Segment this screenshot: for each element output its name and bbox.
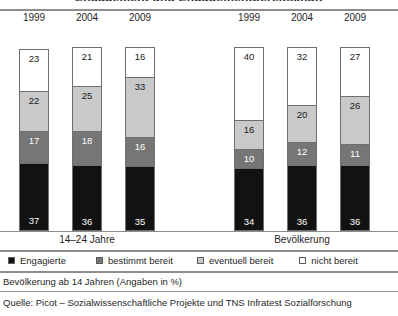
bar-segment-value: 32 xyxy=(288,52,316,62)
legend-label: nicht bereit xyxy=(311,255,357,266)
legend-swatch-icon xyxy=(299,257,306,264)
bar-segment-value: 11 xyxy=(341,149,369,159)
bar-segment-nicht_bereit: 40 xyxy=(235,48,263,120)
bar-segment-bestimmt_bereit: 16 xyxy=(126,137,154,167)
bar-segment-nicht_bereit: 23 xyxy=(20,50,48,91)
bar-segment-value: 17 xyxy=(20,136,48,146)
bar-segment-value: 16 xyxy=(126,52,154,62)
bar-segment-value: 10 xyxy=(235,154,263,164)
legend-item-bestimmt_bereit[interactable]: bestimmt bereit xyxy=(96,255,173,266)
chart-source: Quelle: Picot – Sozialwissenschaftliche … xyxy=(3,297,352,308)
bar-segment-nicht_bereit: 32 xyxy=(288,48,316,105)
bar-segment-engagierte: 36 xyxy=(341,165,369,230)
stacked-bar[interactable]: 21251836 xyxy=(72,47,102,231)
stacked-bar[interactable]: 16331635 xyxy=(125,47,155,231)
bar-segment-value: 36 xyxy=(288,217,316,227)
bar-segment-value: 26 xyxy=(341,101,369,111)
bar-segment-bestimmt_bereit: 17 xyxy=(20,131,48,162)
stacked-bar[interactable]: 40161034 xyxy=(234,47,264,231)
rule-under-note xyxy=(0,291,398,292)
bar-segment-value: 34 xyxy=(235,217,263,227)
bar-segment-value: 23 xyxy=(20,54,48,64)
chart-note: Bevölkerung ab 14 Jahren (Angaben in %) xyxy=(3,276,182,287)
bar-segment-nicht_bereit: 21 xyxy=(73,48,101,86)
bar-segment-bestimmt_bereit: 18 xyxy=(73,131,101,164)
legend-swatch-icon xyxy=(8,257,15,264)
legend-item-eventuell_bereit[interactable]: eventuell bereit xyxy=(197,255,273,266)
rule-under-categories xyxy=(0,250,398,252)
bar-segment-bestimmt_bereit: 11 xyxy=(341,144,369,165)
group-label: Bevölkerung xyxy=(242,234,362,245)
rule-under-legend xyxy=(0,271,398,273)
bar-segment-nicht_bereit: 27 xyxy=(341,48,369,96)
bar-segment-value: 36 xyxy=(73,217,101,227)
bar-segment-engagierte: 34 xyxy=(235,168,263,230)
bar-segment-bestimmt_bereit: 10 xyxy=(235,149,263,168)
stacked-bar[interactable]: 27261136 xyxy=(340,47,370,231)
bar-segment-engagierte: 35 xyxy=(126,166,154,230)
bar-segment-value: 16 xyxy=(235,125,263,135)
stacked-bar[interactable]: 23221737 xyxy=(19,49,49,231)
bar-segment-value: 16 xyxy=(126,142,154,152)
legend-label: bestimmt bereit xyxy=(108,255,173,266)
bar-segment-eventuell_bereit: 26 xyxy=(341,96,369,144)
bar-segment-engagierte: 36 xyxy=(288,165,316,230)
bar-segment-value: 33 xyxy=(126,82,154,92)
bar-segment-value: 37 xyxy=(20,216,48,226)
bar-segment-value: 21 xyxy=(73,52,101,62)
bar-segment-value: 25 xyxy=(73,91,101,101)
bar-segment-value: 20 xyxy=(288,110,316,120)
bar-segment-nicht_bereit: 16 xyxy=(126,48,154,77)
legend-swatch-icon xyxy=(96,257,103,264)
bar-segment-eventuell_bereit: 25 xyxy=(73,86,101,132)
bar-segment-value: 35 xyxy=(126,217,154,227)
bar-segment-value: 40 xyxy=(235,52,263,62)
bar-segment-engagierte: 36 xyxy=(73,165,101,230)
stacked-bar[interactable]: 32201236 xyxy=(287,47,317,231)
bar-segment-value: 22 xyxy=(20,96,48,106)
bar-segment-bestimmt_bereit: 12 xyxy=(288,142,316,164)
bar-segment-value: 18 xyxy=(73,136,101,146)
bar-segment-value: 27 xyxy=(341,52,369,62)
bar-segment-eventuell_bereit: 20 xyxy=(288,105,316,142)
legend-item-nicht_bereit[interactable]: nicht bereit xyxy=(299,255,357,266)
bar-segment-eventuell_bereit: 22 xyxy=(20,91,48,131)
group-label: 14–24 Jahre xyxy=(27,234,147,245)
bar-segment-eventuell_bereit: 33 xyxy=(126,77,154,137)
legend-label: eventuell bereit xyxy=(209,255,273,266)
bar-segment-value: 12 xyxy=(288,147,316,157)
chart-legend: Engagiertebestimmt bereiteventuell berei… xyxy=(8,255,358,266)
bar-segment-value: 36 xyxy=(341,217,369,227)
legend-item-engagierte[interactable]: Engagierte xyxy=(8,255,66,266)
bar-segment-eventuell_bereit: 16 xyxy=(235,120,263,150)
bar-segment-engagierte: 37 xyxy=(20,163,48,230)
legend-swatch-icon xyxy=(197,257,204,264)
legend-label: Engagierte xyxy=(20,255,66,266)
chart-plot-area: 2322173721251836163316354016103432201236… xyxy=(0,0,398,232)
